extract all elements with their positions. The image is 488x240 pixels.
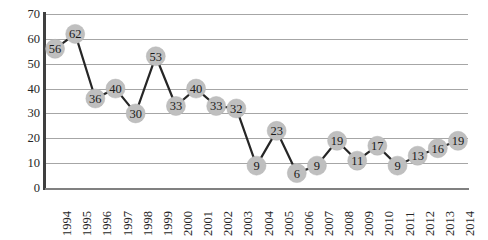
- data-point[interactable]: 11: [348, 151, 367, 170]
- data-point-value-label: 40: [109, 82, 122, 96]
- data-point-value-label: 17: [371, 139, 384, 153]
- data-point-value-label: 23: [270, 124, 283, 138]
- data-point[interactable]: 9: [307, 156, 326, 175]
- data-point[interactable]: 56: [46, 39, 65, 58]
- data-point-value-label: 30: [129, 107, 142, 121]
- data-point[interactable]: 32: [227, 99, 246, 118]
- data-point[interactable]: 62: [66, 24, 85, 43]
- data-point-value-label: 9: [314, 159, 320, 173]
- data-series-layer: 56623640305333403332923691911179131619: [0, 0, 488, 240]
- data-point[interactable]: 13: [408, 146, 427, 165]
- data-point-value-label: 11: [351, 154, 363, 168]
- data-point-value-label: 36: [89, 92, 102, 106]
- data-point-value-label: 6: [294, 167, 300, 181]
- data-point[interactable]: 17: [368, 136, 387, 155]
- data-point[interactable]: 9: [388, 156, 407, 175]
- data-point[interactable]: 19: [328, 131, 347, 150]
- data-point[interactable]: 9: [247, 156, 266, 175]
- data-point-value-label: 33: [210, 99, 223, 113]
- data-point-value-label: 40: [190, 82, 203, 96]
- data-point-value-label: 9: [394, 159, 400, 173]
- data-point[interactable]: 30: [126, 104, 145, 123]
- data-point-value-label: 33: [170, 99, 183, 113]
- series-line: [55, 34, 458, 173]
- data-point[interactable]: 40: [187, 79, 206, 98]
- data-point-value-label: 62: [69, 27, 82, 41]
- data-point-value-label: 9: [253, 159, 259, 173]
- data-point[interactable]: 23: [267, 121, 286, 140]
- data-point[interactable]: 19: [448, 131, 467, 150]
- data-point[interactable]: 16: [428, 139, 447, 158]
- data-point-value-label: 13: [411, 149, 424, 163]
- data-point[interactable]: 6: [287, 164, 306, 183]
- data-point[interactable]: 53: [146, 47, 165, 66]
- data-point-value-label: 32: [230, 102, 243, 116]
- data-point-value-label: 56: [49, 42, 62, 56]
- line-chart: 706050403020100 199419951996199719981999…: [0, 0, 488, 240]
- data-point-value-label: 19: [452, 134, 465, 148]
- data-point-value-label: 19: [331, 134, 344, 148]
- data-point[interactable]: 33: [166, 96, 185, 115]
- data-point-value-label: 53: [150, 50, 163, 64]
- data-point[interactable]: 40: [106, 79, 125, 98]
- data-point[interactable]: 36: [86, 89, 105, 108]
- data-point[interactable]: 33: [207, 96, 226, 115]
- data-point-value-label: 16: [432, 142, 445, 156]
